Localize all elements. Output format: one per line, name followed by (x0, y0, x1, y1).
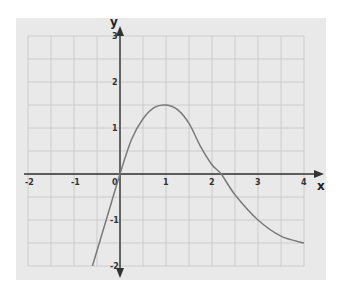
y-axis-label: y (110, 15, 118, 29)
plot-panel (16, 18, 326, 280)
svg-text:-2: -2 (110, 262, 119, 271)
svg-text:2: 2 (209, 178, 215, 187)
svg-text:-1: -1 (71, 178, 80, 187)
svg-text:1: 1 (163, 178, 169, 187)
x-axis-label: x (317, 179, 325, 193)
svg-text:1: 1 (112, 124, 118, 133)
svg-text:3: 3 (112, 32, 118, 41)
svg-text:3: 3 (255, 178, 261, 187)
function-graph: -2-101234-2-1123 x y (0, 0, 344, 293)
svg-text:-2: -2 (25, 178, 34, 187)
svg-text:2: 2 (112, 78, 118, 87)
svg-text:4: 4 (301, 178, 307, 187)
svg-text:-1: -1 (110, 216, 119, 225)
